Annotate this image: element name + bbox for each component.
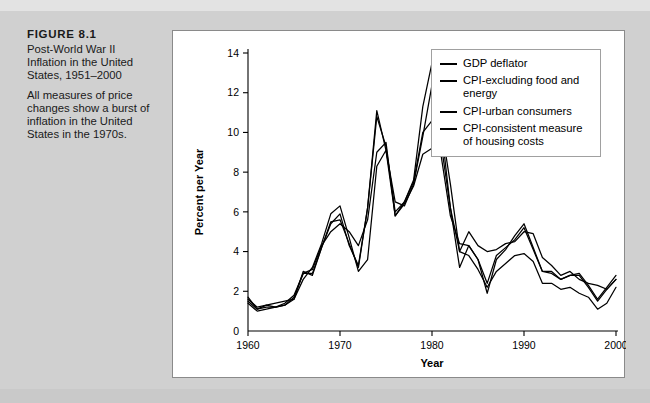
legend-label: CPI-excluding food and energy [463, 74, 592, 100]
figure-page: FIGURE 8.1 Post-World War II Inflation i… [0, 0, 650, 403]
chart-series-line [248, 142, 616, 309]
legend-line-icon [440, 111, 457, 113]
figure-caption: FIGURE 8.1 Post-World War II Inflation i… [27, 28, 157, 141]
x-tick-label: 2000 [604, 339, 626, 351]
y-tick-label: 10 [227, 126, 239, 138]
y-tick-label: 4 [233, 245, 239, 257]
figure-description: All measures of price changes show a bur… [27, 89, 157, 142]
y-tick-label: 2 [233, 285, 239, 297]
y-tick-label: 12 [227, 86, 239, 98]
x-tick-label: 1960 [236, 339, 260, 351]
legend-label: CPI-urban consumers [463, 105, 572, 118]
figure-title: Post-World War II Inflation in the Unite… [27, 43, 157, 83]
legend-label: GDP deflator [463, 57, 527, 70]
y-tick-label: 14 [227, 47, 239, 59]
figure-panel: 0246810121419601970198019902000YearPerce… [172, 30, 625, 378]
x-axis-title: Year [420, 357, 444, 369]
page-top-band [0, 0, 650, 11]
page-bottom-band [0, 389, 650, 403]
legend-item-cpi-consistent-housing: CPI-consistent measure of housing costs [440, 122, 592, 148]
y-tick-label: 8 [233, 166, 239, 178]
y-tick-label: 0 [233, 325, 239, 337]
y-axis-title: Percent per Year [193, 148, 205, 235]
x-tick-label: 1990 [512, 339, 536, 351]
x-tick-label: 1970 [328, 339, 352, 351]
chart-legend: GDP deflator CPI-excluding food and ener… [431, 49, 601, 157]
legend-item-gdp-deflator: GDP deflator [440, 57, 592, 70]
legend-line-icon [440, 63, 457, 65]
legend-line-icon [440, 80, 457, 82]
legend-label: CPI-consistent measure of housing costs [463, 122, 592, 148]
x-tick-label: 1980 [420, 339, 444, 351]
legend-line-icon [440, 128, 457, 130]
figure-number: FIGURE 8.1 [27, 28, 157, 41]
y-tick-label: 6 [233, 206, 239, 218]
legend-item-cpi-urban-consumers: CPI-urban consumers [440, 105, 592, 118]
legend-item-cpi-excluding-food-energy: CPI-excluding food and energy [440, 74, 592, 100]
